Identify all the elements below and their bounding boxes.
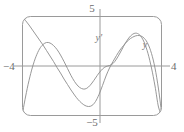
curve-label-y: y	[143, 40, 147, 50]
x-axis-min-label: −4	[3, 61, 15, 72]
graph-figure: 5 −5 −4 4 y' y	[0, 0, 184, 132]
curve-label-y-prime: y'	[96, 33, 103, 43]
plot-canvas	[0, 0, 184, 132]
y-axis-min-label: −5	[86, 117, 98, 128]
x-axis-max-label: 4	[171, 61, 177, 72]
y-axis-max-label: 5	[89, 3, 95, 14]
